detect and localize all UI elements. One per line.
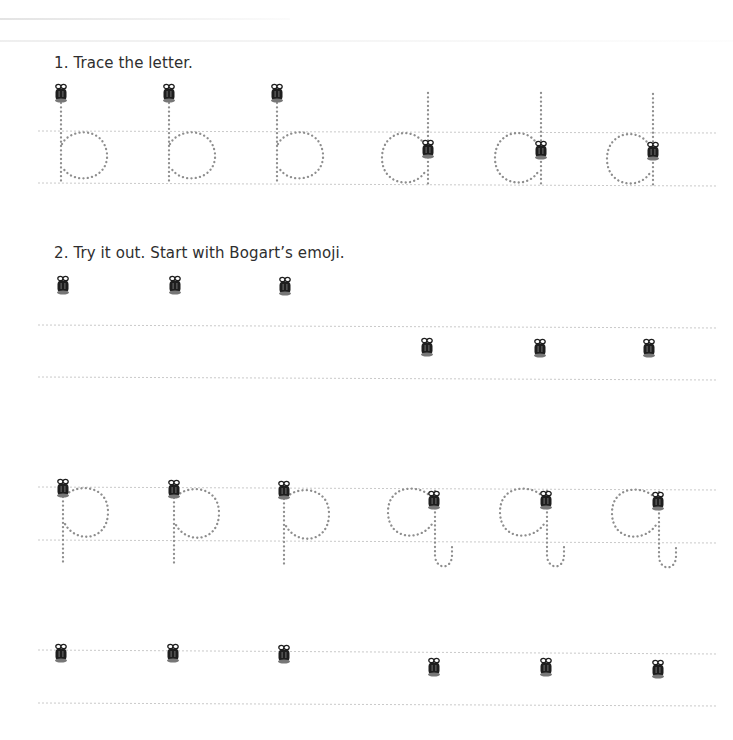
- baseline-guide: [38, 183, 718, 186]
- baseline-guide: [38, 540, 718, 543]
- trace-letter-p[interactable]: [278, 481, 329, 567]
- bogart-emoji-icon: [540, 491, 552, 509]
- trace-letter-d[interactable]: [495, 93, 547, 186]
- bogart-emoji-icon: [428, 491, 440, 509]
- bogart-emoji-icon: [540, 658, 552, 676]
- bogart-emoji-icon: [169, 276, 181, 294]
- bogart-emoji-icon: [163, 84, 175, 102]
- bogart-emoji-icon: [271, 84, 283, 102]
- bogart-emoji-icon: [428, 658, 440, 676]
- bogart-emoji-icon: [55, 84, 67, 102]
- bogart-emoji-icon: [168, 480, 180, 498]
- midline-guide: [38, 487, 718, 490]
- trace-letter-b[interactable]: [271, 84, 323, 183]
- bogart-emoji-icon: [279, 277, 291, 295]
- trace-row-p-q: [38, 479, 718, 567]
- bogart-emoji-icon: [643, 339, 655, 357]
- bogart-emoji-icon: [652, 492, 664, 510]
- trace-letter-q[interactable]: [388, 489, 452, 567]
- trace-letter-b[interactable]: [163, 84, 215, 183]
- bogart-emoji-icon: [57, 276, 69, 294]
- trace-letter-p[interactable]: [168, 480, 219, 566]
- trace-letter-d[interactable]: [382, 93, 434, 186]
- practice-row-p-q[interactable]: [38, 644, 718, 706]
- bogart-emoji-icon: [647, 142, 659, 160]
- worksheet-canvas: [0, 0, 733, 740]
- trace-row-b-d: [38, 84, 718, 187]
- bogart-emoji-icon: [55, 644, 67, 662]
- practice-row-b-d[interactable]: [38, 276, 718, 380]
- bogart-emoji-icon: [167, 644, 179, 662]
- trace-letter-b[interactable]: [55, 84, 107, 183]
- trace-letter-q[interactable]: [500, 489, 564, 567]
- bogart-emoji-icon: [421, 338, 433, 356]
- midline-guide: [38, 131, 718, 133]
- bogart-emoji-icon: [652, 660, 664, 678]
- bogart-emoji-icon: [278, 645, 290, 663]
- baseline-guide: [38, 703, 718, 706]
- bogart-emoji-icon: [535, 141, 547, 159]
- midline-guide: [38, 325, 718, 328]
- trace-letter-q[interactable]: [612, 490, 676, 568]
- trace-letter-d[interactable]: [607, 94, 659, 187]
- bogart-emoji-icon: [422, 140, 434, 158]
- midline-guide: [38, 650, 718, 654]
- trace-letter-p[interactable]: [57, 479, 108, 565]
- baseline-guide: [38, 377, 718, 380]
- bogart-emoji-icon: [57, 479, 69, 497]
- bogart-emoji-icon: [278, 481, 290, 499]
- bogart-emoji-icon: [534, 339, 546, 357]
